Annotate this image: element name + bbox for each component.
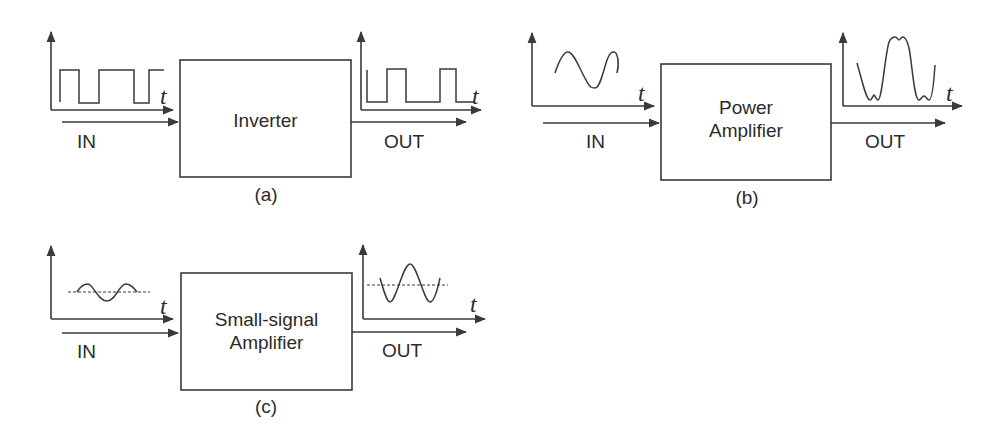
panel-a-input-plot: t: [51, 32, 173, 110]
panel-c-input-plot: t: [51, 246, 173, 319]
output-distorted-wave: [857, 37, 935, 100]
input-label: IN: [77, 341, 96, 362]
block-label-line-2: Amplifier: [230, 332, 305, 353]
panel-b: t IN Power Amplifier OUT t (b): [532, 33, 962, 208]
input-sine-wave: [555, 52, 618, 88]
panel-a: t IN Inverter OUT t (a): [51, 32, 481, 205]
output-square-wave: [367, 69, 475, 102]
panel-caption: (b): [735, 187, 758, 208]
block-label-line-2: Amplifier: [709, 120, 784, 141]
time-axis-label: t: [160, 83, 168, 109]
output-label: OUT: [382, 340, 423, 361]
output-label: OUT: [865, 131, 906, 152]
time-axis-label: t: [946, 80, 954, 106]
block-label-line-1: Small-signal: [215, 309, 318, 330]
panel-a-output-plot: t: [361, 32, 481, 110]
panel-b-output-plot: t: [843, 33, 962, 106]
input-label: IN: [586, 131, 605, 152]
panel-caption: (a): [254, 184, 277, 205]
time-axis-label: t: [472, 83, 480, 109]
input-square-wave: [60, 70, 164, 103]
output-amplified-sine-wave: [380, 264, 440, 302]
time-axis-label: t: [638, 80, 646, 106]
output-label: OUT: [384, 131, 425, 152]
time-axis-label: t: [470, 291, 478, 317]
panel-c-output-plot: t: [363, 245, 485, 319]
panel-c: t IN Small-signal Amplifier OUT t (c): [51, 245, 485, 417]
figure-canvas: t IN Inverter OUT t (a) t IN Power Ampli…: [0, 0, 1002, 437]
panel-b-input-plot: t: [532, 33, 654, 106]
time-axis-label: t: [160, 293, 168, 319]
input-label: IN: [77, 131, 96, 152]
block-label: Inverter: [233, 110, 298, 131]
block-label-line-1: Power: [719, 97, 774, 118]
panel-caption: (c): [255, 396, 277, 417]
